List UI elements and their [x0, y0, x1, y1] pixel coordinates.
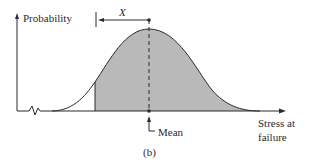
x-axis-label-line1: Stress at: [258, 117, 295, 129]
y-axis-arrowhead-icon: [15, 13, 19, 19]
mean-baseline-dot: [147, 109, 151, 113]
mean-label: Mean: [158, 126, 183, 138]
figure-caption: (b): [143, 146, 156, 158]
mean-pointer-arrowhead-icon: [147, 116, 151, 122]
offset-x-label: X: [119, 6, 126, 18]
shaded-area: [95, 29, 260, 111]
x-axis-label-line2: failure: [258, 131, 287, 143]
y-axis-label: Probability: [23, 12, 72, 24]
x-dimension-arrowhead-icon: [98, 18, 104, 22]
stress-probability-diagram: Probability X Mean Stress at failure (b): [0, 0, 310, 166]
x-axis-arrowhead-icon: [279, 109, 286, 114]
